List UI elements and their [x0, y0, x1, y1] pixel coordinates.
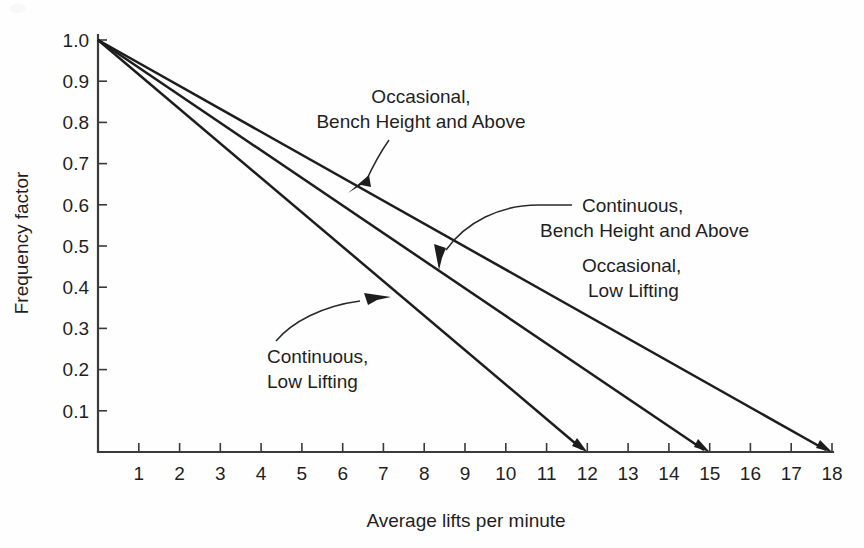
x-tick-marks — [139, 443, 832, 452]
y-tick-label: 0.5 — [63, 236, 89, 257]
x-tick-label: 2 — [174, 463, 185, 484]
annotation-line: Continuous, — [267, 346, 368, 367]
y-tick-label: 0.8 — [63, 112, 89, 133]
x-tick-label: 3 — [215, 463, 226, 484]
annotation-arrowhead — [434, 244, 446, 270]
x-tick-labels: 1 2 3 4 5 6 7 8 9 10 11 12 13 14 15 16 1… — [134, 463, 843, 484]
annotation-arrowhead — [364, 293, 391, 305]
line-chart: 1.0 0.9 0.8 0.7 0.6 0.5 0.4 0.3 0.2 0.1 — [0, 0, 864, 548]
y-tick-label: 1.0 — [63, 30, 89, 51]
x-tick-label: 6 — [337, 463, 348, 484]
y-tick-label: 0.1 — [63, 401, 89, 422]
series-arrowhead-continuous-low — [572, 438, 587, 452]
x-tick-label: 9 — [460, 463, 471, 484]
x-tick-label: 7 — [378, 463, 389, 484]
x-tick-label: 13 — [618, 463, 639, 484]
y-tick-label: 0.3 — [63, 318, 89, 339]
x-tick-label: 14 — [658, 463, 680, 484]
annotation-line: Occasional, — [582, 255, 681, 276]
annotation-line: Low Lifting — [588, 280, 679, 301]
x-tick-label: 5 — [297, 463, 308, 484]
y-tick-label: 0.2 — [63, 359, 89, 380]
x-tick-label: 15 — [699, 463, 720, 484]
figure-container: 1.0 0.9 0.8 0.7 0.6 0.5 0.4 0.3 0.2 0.1 — [0, 0, 864, 548]
annotation-leader-line — [276, 301, 360, 341]
x-tick-label: 12 — [577, 463, 598, 484]
x-tick-label: 10 — [495, 463, 516, 484]
y-tick-label: 0.4 — [63, 277, 90, 298]
x-tick-label: 1 — [134, 463, 145, 484]
y-tick-label: 0.9 — [63, 71, 89, 92]
annotation-continuous-bench: Continuous, Bench Height and Above Occas… — [434, 195, 749, 301]
annotation-line: Bench Height and Above — [540, 220, 749, 241]
x-tick-label: 4 — [256, 463, 267, 484]
x-axis-title: Average lifts per minute — [366, 510, 565, 531]
x-tick-label: 18 — [821, 463, 842, 484]
annotation-line: Bench Height and Above — [316, 111, 525, 132]
annotation-line: Occasional, — [371, 86, 470, 107]
y-tick-label: 0.7 — [63, 153, 89, 174]
annotation-occasional-bench: Occasional, Bench Height and Above — [316, 86, 525, 193]
y-tick-marks — [98, 40, 107, 411]
y-tick-label: 0.6 — [63, 195, 89, 216]
x-tick-label: 17 — [781, 463, 802, 484]
x-tick-label: 16 — [740, 463, 761, 484]
annotation-leader-line — [366, 140, 389, 181]
annotation-line: Low Lifting — [267, 371, 358, 392]
y-axis-title: Frequency factor — [11, 171, 32, 314]
annotation-continuous-low: Continuous, Low Lifting — [267, 293, 391, 392]
x-tick-label: 11 — [537, 463, 557, 484]
annotation-line: Continuous, — [582, 195, 683, 216]
y-tick-labels: 1.0 0.9 0.8 0.7 0.6 0.5 0.4 0.3 0.2 0.1 — [63, 30, 90, 422]
x-tick-label: 8 — [419, 463, 430, 484]
